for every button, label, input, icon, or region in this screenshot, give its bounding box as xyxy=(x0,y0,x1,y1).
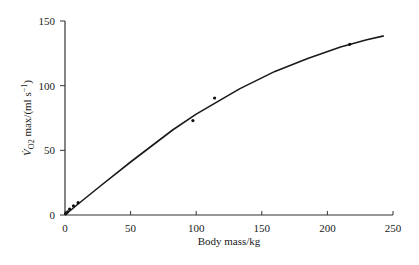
data-point xyxy=(72,204,75,207)
x-tick-label: 250 xyxy=(385,222,402,234)
y-tick-label: 0 xyxy=(50,209,56,221)
data-point xyxy=(348,43,351,46)
x-axis-label: Body mass/kg xyxy=(198,235,261,247)
data-point xyxy=(191,119,194,122)
axes xyxy=(65,21,393,215)
data-point xyxy=(68,208,71,211)
x-tick-label: 200 xyxy=(319,222,336,234)
data-point xyxy=(77,201,80,204)
chart: 050100150200250050100150 Body mass/kg V̇… xyxy=(0,0,419,265)
x-tick-label: 50 xyxy=(125,222,137,234)
y-tick-label: 50 xyxy=(44,144,56,156)
data-point xyxy=(213,96,216,99)
plot-area xyxy=(64,36,384,215)
x-tick-label: 100 xyxy=(188,222,205,234)
axis-ticks: 050100150200250050100150 xyxy=(39,15,402,234)
fitted-curve xyxy=(65,36,384,215)
y-tick-label: 150 xyxy=(39,15,56,27)
x-tick-label: 0 xyxy=(62,222,68,234)
y-axis-label: V̇O2 max/(ml s−1) xyxy=(20,80,36,156)
y-tick-label: 100 xyxy=(39,80,56,92)
data-point xyxy=(66,210,69,213)
x-tick-label: 150 xyxy=(254,222,271,234)
